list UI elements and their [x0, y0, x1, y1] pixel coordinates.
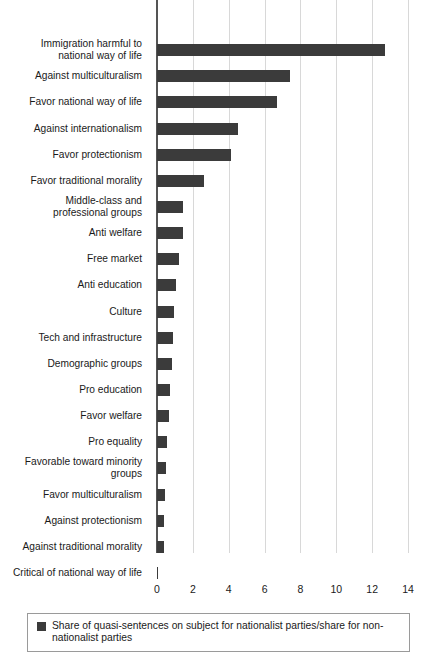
category-label: Critical of national way of life	[0, 567, 142, 579]
category-label: Against internationalism	[0, 123, 142, 135]
bars-container	[157, 30, 436, 575]
bar	[157, 96, 277, 108]
category-label: Culture	[0, 306, 142, 318]
category-label-row: Favor multiculturalism	[0, 482, 150, 508]
bar	[157, 410, 169, 422]
bar	[157, 227, 183, 239]
category-label-row: Favor welfare	[0, 403, 150, 429]
bar-chart: Immigration harmful to national way of l…	[0, 0, 436, 663]
bar-row	[157, 37, 436, 63]
category-label: Anti welfare	[0, 227, 142, 239]
category-label-row: Favorable toward minority groups	[0, 455, 150, 481]
bar	[157, 306, 174, 318]
category-label-row: Immigration harmful to national way of l…	[0, 37, 150, 63]
category-label-row: Demographic groups	[0, 351, 150, 377]
bar	[157, 515, 164, 527]
category-label-row: Free market	[0, 246, 150, 272]
bar-row	[157, 142, 436, 168]
category-label: Favorable toward minority groups	[0, 457, 142, 480]
bar-row	[157, 194, 436, 220]
bar-row	[157, 63, 436, 89]
bar-row	[157, 168, 436, 194]
bar	[157, 541, 164, 553]
x-tick-label: 0	[154, 583, 160, 595]
category-label-row: Favor traditional morality	[0, 168, 150, 194]
legend-color-swatch	[37, 622, 46, 631]
category-labels: Immigration harmful to national way of l…	[0, 30, 150, 575]
category-label-row: Against internationalism	[0, 115, 150, 141]
bar	[157, 279, 176, 291]
bar-row	[157, 482, 436, 508]
category-label: Against traditional morality	[0, 541, 142, 553]
bar	[157, 253, 179, 265]
category-label: Against protectionism	[0, 515, 142, 527]
bar	[157, 44, 385, 56]
bar-row	[157, 455, 436, 481]
bar	[157, 358, 172, 370]
x-axis-ticks: 02468101214	[157, 583, 436, 603]
category-label-row: Anti welfare	[0, 220, 150, 246]
bar-row	[157, 325, 436, 351]
category-label-row: Favor national way of life	[0, 89, 150, 115]
category-label-row: Anti education	[0, 272, 150, 298]
bar	[157, 384, 170, 396]
bar-row	[157, 246, 436, 272]
category-label-row: Against traditional morality	[0, 534, 150, 560]
category-label: Demographic groups	[0, 358, 142, 370]
x-tick-label: 4	[226, 583, 232, 595]
bar-row	[157, 377, 436, 403]
x-tick-label: 2	[190, 583, 196, 595]
category-label: Favor protectionism	[0, 149, 142, 161]
category-label: Free market	[0, 253, 142, 265]
legend-label: Share of quasi-sentences on subject for …	[52, 620, 401, 645]
bar	[157, 462, 166, 474]
category-label-row: Against protectionism	[0, 508, 150, 534]
plot-area: Immigration harmful to national way of l…	[0, 30, 436, 575]
chart-legend: Share of quasi-sentences on subject for …	[27, 613, 410, 652]
category-label: Favor national way of life	[0, 97, 142, 109]
x-tick-label: 12	[366, 583, 378, 595]
category-label: Favor multiculturalism	[0, 489, 142, 501]
x-tick-label: 14	[402, 583, 414, 595]
category-label-row: Middle-class and professional groups	[0, 194, 150, 220]
bar-row	[157, 429, 436, 455]
bar	[157, 201, 183, 213]
bar	[157, 149, 231, 161]
category-label-row: Against multiculturalism	[0, 63, 150, 89]
x-tick-label: 6	[262, 583, 268, 595]
x-tick-label: 10	[330, 583, 342, 595]
bar	[157, 70, 290, 82]
category-label: Immigration harmful to national way of l…	[0, 39, 142, 62]
bar-row	[157, 403, 436, 429]
bar-row	[157, 115, 436, 141]
category-label: Middle-class and professional groups	[0, 195, 142, 218]
bar-row	[157, 272, 436, 298]
category-label-row: Critical of national way of life	[0, 560, 150, 586]
category-label: Against multiculturalism	[0, 70, 142, 82]
category-label: Favor welfare	[0, 410, 142, 422]
category-label: Favor traditional morality	[0, 175, 142, 187]
category-label: Pro education	[0, 384, 142, 396]
category-label: Anti education	[0, 280, 142, 292]
category-label-row: Pro equality	[0, 429, 150, 455]
bar	[157, 489, 165, 501]
category-label: Tech and infrastructure	[0, 332, 142, 344]
bar	[157, 123, 238, 135]
bar	[157, 332, 173, 344]
bar-row	[157, 220, 436, 246]
bar-row	[157, 89, 436, 115]
bar-row	[157, 351, 436, 377]
category-label-row: Pro education	[0, 377, 150, 403]
bar-row	[157, 508, 436, 534]
bar	[157, 436, 167, 448]
category-label: Pro equality	[0, 437, 142, 449]
bar-row	[157, 299, 436, 325]
category-label-row: Tech and infrastructure	[0, 325, 150, 351]
bar-row	[157, 534, 436, 560]
bar	[157, 175, 204, 187]
category-label-row: Culture	[0, 299, 150, 325]
x-tick-label: 8	[298, 583, 304, 595]
category-label-row: Favor protectionism	[0, 142, 150, 168]
bar	[157, 567, 158, 579]
